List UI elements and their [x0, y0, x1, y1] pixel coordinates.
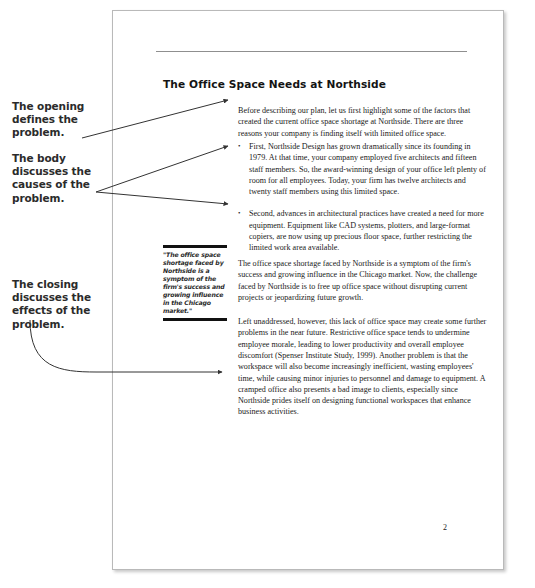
bullet-list-container: First, Northside Design has grown dramat… [238, 141, 488, 254]
middle-paragraph: The office space shortage faced by North… [238, 258, 488, 303]
reason-list: First, Northside Design has grown dramat… [238, 141, 488, 254]
closing-paragraph: Left unaddressed, however, this lack of … [238, 316, 488, 418]
header-rule [156, 51, 467, 52]
page-title: The Office Space Needs at Northside [163, 78, 463, 90]
annotation-closing: The closing discusses the effects of the… [12, 278, 116, 331]
list-item: Second, advances in architectural practi… [238, 208, 488, 253]
pull-quote-rule-bottom [163, 318, 227, 321]
pull-quote-rule-top [163, 245, 227, 248]
annotation-body: The body discusses the causes of the pro… [12, 152, 116, 205]
document-page: The Office Space Needs at Northside Befo… [112, 10, 504, 570]
pull-quote-box: "The office space shortage faced by Nort… [163, 245, 227, 321]
page-number: 2 [443, 523, 447, 532]
intro-paragraph: Before describing our plan, let us first… [238, 105, 488, 139]
annotation-opening: The opening defines the problem. [12, 100, 116, 140]
pull-quote-text: "The office space shortage faced by Nort… [163, 251, 227, 316]
list-item: First, Northside Design has grown dramat… [238, 141, 488, 197]
